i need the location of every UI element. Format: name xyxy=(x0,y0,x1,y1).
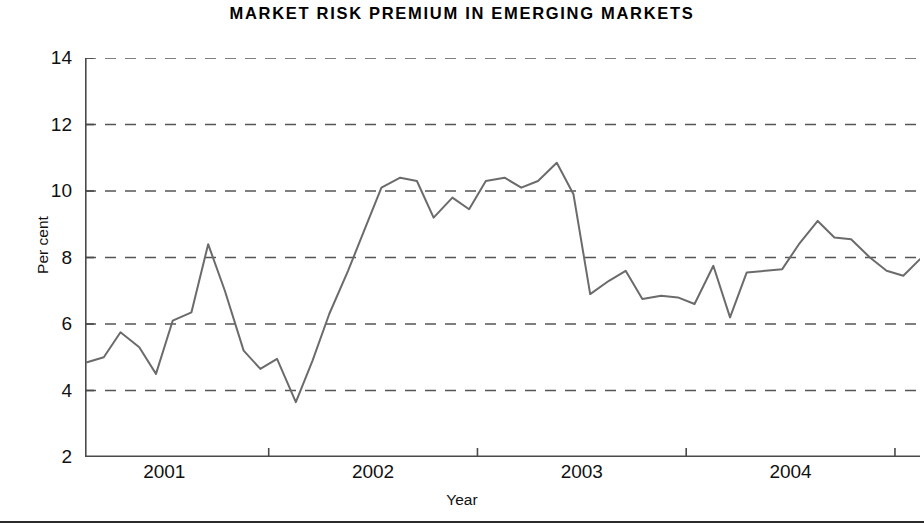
x-tick-label: 2003 xyxy=(522,462,642,481)
x-axis-label: Year xyxy=(0,491,924,509)
y-axis-label: Per cent xyxy=(34,190,52,300)
y-tick-label: 14 xyxy=(0,48,72,67)
x-tick-label: 2001 xyxy=(104,462,224,481)
x-tick-label: 2002 xyxy=(313,462,433,481)
y-tick-label: 6 xyxy=(0,314,72,333)
gridlines xyxy=(85,58,920,391)
y-tick-label: 2 xyxy=(0,447,72,466)
x-tick-label: 2004 xyxy=(731,462,851,481)
chart-title: MARKET RISK PREMIUM IN EMERGING MARKETS xyxy=(0,4,924,23)
plot-svg xyxy=(85,58,920,457)
y-tick-label: 4 xyxy=(0,381,72,400)
y-tick-label: 8 xyxy=(0,248,72,267)
x-axis-tick-marks xyxy=(269,448,895,456)
y-tick-label: 12 xyxy=(0,115,72,134)
y-tick-label: 10 xyxy=(0,181,72,200)
plot-area xyxy=(85,58,920,457)
data-series-line xyxy=(87,163,920,402)
y-axis-tick-marks xyxy=(86,58,94,457)
chart-figure: MARKET RISK PREMIUM IN EMERGING MARKETS … xyxy=(0,0,924,523)
